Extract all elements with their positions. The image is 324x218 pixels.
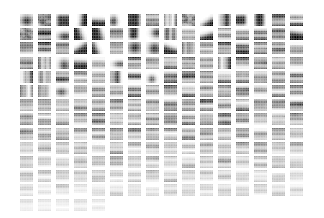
- feature-patch: [272, 14, 285, 26]
- feature-patch: [128, 170, 141, 182]
- feature-patch: [92, 184, 105, 196]
- feature-patch: [56, 184, 69, 196]
- feature-patch: [218, 113, 231, 125]
- feature-patch: [236, 128, 249, 140]
- feature-patch: [200, 99, 213, 111]
- feature-patch: [254, 85, 267, 97]
- feature-patch: [38, 128, 51, 140]
- feature-patch: [218, 128, 231, 140]
- feature-patch: [290, 14, 303, 26]
- feature-patch: [290, 128, 303, 140]
- feature-patch: [74, 85, 87, 97]
- feature-patch: [254, 28, 267, 40]
- feature-patch: [272, 85, 285, 97]
- feature-patch: [110, 113, 123, 125]
- feature-patch: [236, 85, 249, 97]
- feature-patch: [164, 184, 177, 196]
- feature-patch: [128, 156, 141, 168]
- feature-patch: [20, 113, 33, 125]
- feature-patch: [20, 156, 33, 168]
- feature-patch: [146, 170, 159, 182]
- feature-patch: [146, 28, 159, 40]
- feature-patch: [74, 57, 87, 69]
- feature-patch: [200, 128, 213, 140]
- feature-patch: [92, 71, 105, 83]
- feature-patch: [110, 71, 123, 83]
- feature-patch: [236, 28, 249, 40]
- feature-patch: [200, 28, 213, 40]
- feature-patch: [128, 113, 141, 125]
- feature-patch: [38, 85, 51, 97]
- feature-patch: [272, 128, 285, 140]
- feature-patch: [20, 28, 33, 40]
- feature-patch: [200, 113, 213, 125]
- feature-patch: [92, 142, 105, 154]
- feature-patch: [74, 128, 87, 140]
- feature-patch: [272, 28, 285, 40]
- feature-patch: [20, 57, 33, 69]
- feature-patch: [38, 99, 51, 111]
- feature-patch: [110, 184, 123, 196]
- feature-patch: [182, 142, 195, 154]
- feature-patch: [164, 113, 177, 125]
- feature-patch: [200, 85, 213, 97]
- feature-patch: [182, 28, 195, 40]
- feature-patch: [236, 142, 249, 154]
- feature-patch: [290, 184, 303, 196]
- feature-patch: [146, 184, 159, 196]
- feature-patch: [20, 14, 33, 26]
- feature-dictionary-figure: [0, 0, 324, 218]
- feature-patch: [218, 85, 231, 97]
- feature-patch: [164, 14, 177, 26]
- feature-patch: [92, 113, 105, 125]
- feature-patch: [200, 184, 213, 196]
- feature-patch: [128, 85, 141, 97]
- feature-patch: [272, 156, 285, 168]
- feature-patch: [74, 71, 87, 83]
- feature-patch: [110, 42, 123, 54]
- feature-patch: [20, 184, 33, 196]
- feature-patch: [38, 142, 51, 154]
- feature-patch: [38, 14, 51, 26]
- feature-patch: [128, 28, 141, 40]
- feature-patch: [218, 14, 231, 26]
- feature-patch: [218, 28, 231, 40]
- feature-patch: [272, 113, 285, 125]
- feature-patch: [146, 99, 159, 111]
- feature-patch: [110, 14, 123, 26]
- feature-patch: [110, 128, 123, 140]
- feature-patch: [56, 113, 69, 125]
- feature-patch: [164, 57, 177, 69]
- feature-patch: [20, 42, 33, 54]
- feature-patch: [254, 184, 267, 196]
- feature-patch: [56, 42, 69, 54]
- feature-patch: [20, 128, 33, 140]
- feature-patch: [56, 71, 69, 83]
- feature-patch: [146, 142, 159, 154]
- feature-patch: [56, 199, 69, 211]
- feature-patch: [74, 14, 87, 26]
- feature-patch: [56, 28, 69, 40]
- feature-patch: [236, 71, 249, 83]
- feature-patch: [218, 142, 231, 154]
- feature-patch: [92, 28, 105, 40]
- feature-patch: [254, 99, 267, 111]
- feature-patch: [56, 14, 69, 26]
- feature-patch: [92, 42, 105, 54]
- feature-patch: [92, 156, 105, 168]
- feature-patch: [164, 128, 177, 140]
- feature-patch: [290, 28, 303, 40]
- feature-patch: [92, 128, 105, 140]
- feature-patch: [236, 42, 249, 54]
- feature-patch: [20, 71, 33, 83]
- feature-patch: [218, 99, 231, 111]
- feature-patch: [38, 57, 51, 69]
- feature-patch: [182, 42, 195, 54]
- feature-patch: [182, 184, 195, 196]
- feature-patch: [164, 99, 177, 111]
- feature-patch: [74, 142, 87, 154]
- feature-patch: [38, 113, 51, 125]
- feature-patch: [200, 57, 213, 69]
- feature-patch: [272, 42, 285, 54]
- feature-patch: [200, 42, 213, 54]
